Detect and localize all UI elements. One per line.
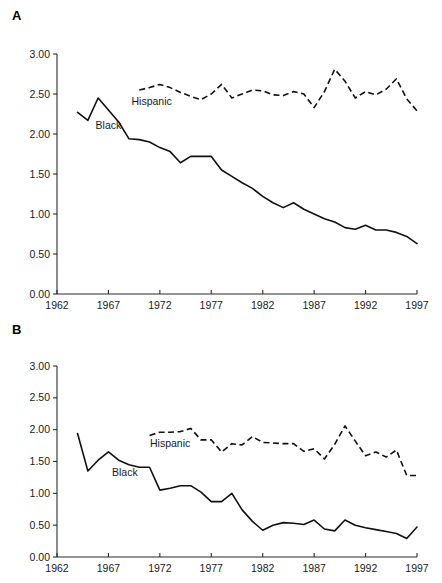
y-tick-label: 1.00 — [30, 487, 51, 499]
y-tick-label: 0.00 — [30, 551, 51, 563]
series-line-hispanic — [150, 426, 417, 476]
x-tick-label: 1962 — [45, 562, 69, 574]
x-tick-label: 1992 — [354, 562, 378, 574]
y-tick-label: 1.50 — [30, 455, 51, 467]
y-tick-label: 0.00 — [30, 288, 51, 300]
chart-panel-a: A 0.000.501.001.502.002.503.001962196719… — [0, 0, 442, 320]
x-tick-label: 1972 — [148, 299, 172, 311]
series-line-black — [78, 98, 417, 244]
series-line-hispanic — [139, 69, 417, 111]
x-tick-label: 1962 — [45, 299, 69, 311]
x-tick-label: 1997 — [405, 562, 429, 574]
y-tick-label: 1.00 — [30, 208, 51, 220]
x-tick-label: 1982 — [251, 562, 275, 574]
plot-area-b: 0.000.501.001.502.002.503.00196219671972… — [0, 320, 442, 583]
y-tick-label: 0.50 — [30, 519, 51, 531]
series-line-black — [78, 433, 417, 538]
y-tick-label: 2.00 — [30, 423, 51, 435]
y-tick-label: 2.00 — [30, 128, 51, 140]
y-tick-label: 1.50 — [30, 168, 51, 180]
x-tick-label: 1982 — [251, 299, 275, 311]
series-label-hispanic: Hispanic — [150, 437, 190, 449]
plot-area-a: 0.000.501.001.502.002.503.00196219671972… — [0, 0, 442, 320]
x-tick-label: 1967 — [97, 299, 121, 311]
y-tick-label: 2.50 — [30, 391, 51, 403]
y-tick-label: 3.00 — [30, 48, 51, 60]
series-label-black: Black — [96, 119, 122, 131]
figure-container: A 0.000.501.001.502.002.503.001962196719… — [0, 0, 442, 583]
series-label-hispanic: Hispanic — [131, 95, 171, 107]
x-tick-label: 1972 — [148, 562, 172, 574]
x-tick-label: 1992 — [354, 299, 378, 311]
chart-panel-b: B 0.000.501.001.502.002.503.001962196719… — [0, 320, 442, 583]
x-tick-label: 1977 — [200, 562, 224, 574]
x-tick-label: 1987 — [302, 299, 326, 311]
x-tick-label: 1987 — [302, 562, 326, 574]
series-label-black: Black — [112, 466, 138, 478]
y-tick-label: 2.50 — [30, 88, 51, 100]
y-tick-label: 3.00 — [30, 360, 51, 372]
x-tick-label: 1997 — [405, 299, 429, 311]
x-tick-label: 1977 — [200, 299, 224, 311]
y-tick-label: 0.50 — [30, 248, 51, 260]
x-tick-label: 1967 — [97, 562, 121, 574]
